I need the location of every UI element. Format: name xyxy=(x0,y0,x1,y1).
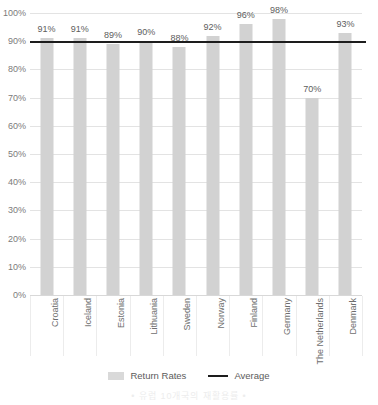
bar[interactable] xyxy=(206,36,219,295)
legend-item-average: Average xyxy=(208,370,269,381)
bar[interactable] xyxy=(306,98,319,295)
bar-slot: 96% xyxy=(229,13,262,295)
x-axis-category: The Netherlands xyxy=(296,296,329,362)
bar-value-label: 89% xyxy=(104,30,122,40)
x-axis-tick-label: The Netherlands xyxy=(316,298,325,365)
bar-slot: 88% xyxy=(163,13,196,295)
x-axis-tick-label: Lithuania xyxy=(150,298,159,335)
legend-item-return-rates: Return Rates xyxy=(108,370,186,381)
x-axis-tick-label: Iceland xyxy=(84,298,93,327)
bar[interactable] xyxy=(40,38,53,295)
y-axis-tick-label: 20% xyxy=(8,234,26,244)
x-axis-tick-label: Estonia xyxy=(117,298,126,328)
bar-slot: 91% xyxy=(30,13,63,295)
x-axis-category: Lithuania xyxy=(130,296,163,362)
x-axis-category: Denmark xyxy=(329,296,362,362)
x-axis-category: Iceland xyxy=(63,296,96,362)
x-axis-separator xyxy=(329,296,330,356)
x-axis-separator xyxy=(130,296,131,356)
bar-value-label: 91% xyxy=(38,24,56,34)
y-axis-tick-label: 30% xyxy=(8,205,26,215)
x-axis-separator xyxy=(196,296,197,356)
bar[interactable] xyxy=(239,24,252,295)
bar-slot: 90% xyxy=(130,13,163,295)
x-axis-separator xyxy=(163,296,164,356)
bar-slot: 89% xyxy=(96,13,129,295)
bar-value-label: 93% xyxy=(336,19,354,29)
average-line xyxy=(30,41,366,43)
x-axis-tick-label: Sweden xyxy=(183,298,192,331)
watermark: • 유럽 10개국의 재활용률 • xyxy=(0,389,378,402)
bar-chart: 100%90%80%70%60%50%40%30%20%10%0% 91%91%… xyxy=(0,0,378,405)
bar-value-label: 70% xyxy=(303,84,321,94)
legend-label-average: Average xyxy=(234,370,269,381)
x-axis-tick-label: Croatia xyxy=(51,298,60,327)
x-axis-tick-label: Germany xyxy=(283,298,292,335)
bars-layer: 91%91%89%90%88%92%96%98%70%93% xyxy=(30,13,362,295)
x-axis: CroatiaIcelandEstoniaLithuaniaSwedenNorw… xyxy=(30,296,362,362)
bar-value-label: 91% xyxy=(71,24,89,34)
y-axis-tick-label: 80% xyxy=(8,64,26,74)
x-axis-separator xyxy=(96,296,97,356)
x-axis-separator xyxy=(30,296,31,356)
x-axis-separator xyxy=(63,296,64,356)
x-axis-category: Norway xyxy=(196,296,229,362)
x-axis-category: Germany xyxy=(262,296,295,362)
bar[interactable] xyxy=(106,44,119,295)
x-axis-tick-label: Norway xyxy=(217,298,226,329)
x-axis-tick-label: Finland xyxy=(250,298,259,328)
plot-area: 100%90%80%70%60%50%40%30%20%10%0% 91%91%… xyxy=(30,13,362,295)
bar[interactable] xyxy=(140,41,153,295)
legend-label-return-rates: Return Rates xyxy=(130,370,186,381)
legend: Return Rates Average xyxy=(0,370,378,381)
bar-value-label: 90% xyxy=(137,27,155,37)
x-axis-separator xyxy=(229,296,230,356)
y-axis-tick-label: 10% xyxy=(8,262,26,272)
bar-value-label: 92% xyxy=(204,22,222,32)
y-axis-tick-label: 60% xyxy=(8,121,26,131)
y-axis-tick-label: 90% xyxy=(8,36,26,46)
x-axis-separator xyxy=(296,296,297,356)
bar-value-label: 96% xyxy=(237,10,255,20)
y-axis-tick-label: 100% xyxy=(3,8,26,18)
bar-value-label: 98% xyxy=(270,5,288,15)
y-axis-tick-label: 0% xyxy=(13,290,26,300)
bar-slot: 93% xyxy=(329,13,362,295)
bar[interactable] xyxy=(173,47,186,295)
bar[interactable] xyxy=(339,33,352,295)
legend-swatch-icon xyxy=(108,372,124,380)
y-axis-tick-label: 50% xyxy=(8,149,26,159)
bar-slot: 91% xyxy=(63,13,96,295)
bar-slot: 70% xyxy=(296,13,329,295)
x-axis-category: Estonia xyxy=(96,296,129,362)
x-axis-separator xyxy=(362,296,363,356)
x-axis-category: Croatia xyxy=(30,296,63,362)
x-axis-tick-label: Denmark xyxy=(349,298,358,335)
y-axis-tick-label: 70% xyxy=(8,93,26,103)
bar-slot: 98% xyxy=(262,13,295,295)
x-axis-category: Sweden xyxy=(163,296,196,362)
bar[interactable] xyxy=(73,38,86,295)
bar[interactable] xyxy=(272,19,285,295)
x-axis-separator xyxy=(262,296,263,356)
y-axis-tick-label: 40% xyxy=(8,177,26,187)
x-axis-category: Finland xyxy=(229,296,262,362)
legend-line-icon xyxy=(208,375,228,377)
bar-slot: 92% xyxy=(196,13,229,295)
